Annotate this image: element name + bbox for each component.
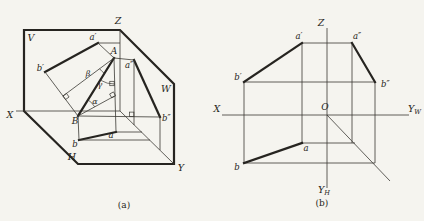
caption-a: (a) (118, 200, 130, 210)
label-point-b-dblprime: b″ (162, 113, 171, 123)
label-point-a-prime: a′ (90, 32, 97, 42)
label-axis-Yh-subscript: H (323, 189, 330, 197)
label-point-b-prime: b′ (234, 72, 241, 82)
label-point-A: A (110, 46, 118, 56)
label-plane-W: W (161, 83, 172, 94)
label-axis-Yh: YH (318, 184, 330, 197)
line-AB (78, 58, 114, 116)
label-point-a-dblprime: a″ (353, 31, 362, 41)
projection-ba (244, 143, 302, 163)
label-point-a: a (108, 130, 113, 140)
label-angle-alpha: α (92, 97, 98, 106)
angle-beta-arc (100, 69, 105, 74)
label-axis-Z: Z (317, 17, 325, 28)
angle-gamma-arc (100, 80, 114, 84)
label-axis-Yw: YW (408, 103, 422, 116)
label-point-b: b (234, 162, 239, 172)
label-axis-Yw-subscript: W (414, 108, 422, 116)
label-point-a-prime: a′ (296, 31, 303, 41)
caption-b: (b) (316, 198, 329, 208)
label-axis-Z: Z (114, 15, 122, 26)
label-point-a: a (303, 143, 308, 153)
label-origin-O: O (321, 102, 329, 112)
projection-a-dblprime-b-dblprime (352, 43, 375, 82)
label-point-B: B (71, 116, 79, 126)
label-point-b-prime: b′ (37, 63, 44, 73)
label-point-b: b (72, 139, 77, 149)
label-point-a-dblprime: a″ (125, 60, 134, 70)
label-angle-beta: β (85, 69, 91, 78)
figure-a-pictorial: VHWXYZABa′b′a″b″abαβγ(a) (6, 15, 186, 210)
projector-b-prime-B (45, 72, 78, 116)
textbook-figure-page: VHWXYZABa′b′a″b″abαβγ(a) ZXOYWYHa′a″b′b″… (0, 0, 424, 221)
label-axis-X: X (6, 109, 15, 120)
projector-B-b-dblprime (78, 116, 160, 117)
projection-b-prime-a-prime (244, 43, 302, 82)
label-point-b-dblprime: b″ (381, 79, 390, 89)
label-axis-Y: Y (178, 162, 186, 173)
label-plane-V: V (28, 32, 36, 43)
label-axis-X: X (213, 103, 222, 114)
projection-diagram: VHWXYZABa′b′a″b″abαβγ(a) ZXOYWYHa′a″b′b″… (0, 0, 424, 221)
figure-b-orthographic: ZXOYWYHa′a″b′b″ab(b) (213, 17, 423, 208)
miter-45-line (327, 115, 390, 181)
projection-a-dblprime-b-dblprime (134, 60, 160, 117)
right-angle-mark-s4 (130, 112, 134, 116)
label-angle-gamma: γ (98, 80, 103, 89)
label-plane-H: H (67, 151, 77, 162)
projection-a-prime-b-prime (45, 43, 98, 72)
